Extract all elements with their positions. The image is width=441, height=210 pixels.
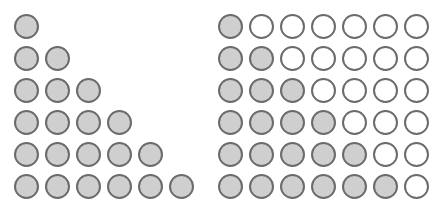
filled-circle <box>14 110 39 135</box>
filled-circle <box>14 46 39 71</box>
filled-circle <box>249 142 274 167</box>
empty-circle <box>311 14 336 39</box>
filled-circle <box>45 142 70 167</box>
empty-circle <box>342 110 367 135</box>
filled-circle <box>14 14 39 39</box>
empty-circle <box>311 78 336 103</box>
filled-circle <box>249 46 274 71</box>
empty-circle <box>404 78 429 103</box>
filled-circle <box>373 174 398 199</box>
empty-circle <box>373 46 398 71</box>
filled-circle <box>138 142 163 167</box>
filled-circle <box>45 110 70 135</box>
empty-circle <box>404 110 429 135</box>
filled-circle <box>76 110 101 135</box>
filled-circle <box>218 174 243 199</box>
filled-circle <box>107 142 132 167</box>
empty-circle <box>373 78 398 103</box>
filled-circle <box>218 46 243 71</box>
filled-circle <box>249 78 274 103</box>
filled-circle <box>218 78 243 103</box>
empty-circle <box>373 110 398 135</box>
filled-circle <box>218 142 243 167</box>
empty-circle <box>342 14 367 39</box>
empty-circle <box>342 78 367 103</box>
filled-circle <box>311 142 336 167</box>
filled-circle <box>107 174 132 199</box>
filled-circle <box>280 78 305 103</box>
filled-circle <box>280 142 305 167</box>
filled-circle <box>249 174 274 199</box>
empty-circle <box>280 14 305 39</box>
filled-circle <box>14 142 39 167</box>
filled-circle <box>169 174 194 199</box>
filled-circle <box>45 46 70 71</box>
filled-circle <box>218 110 243 135</box>
empty-circle <box>404 46 429 71</box>
filled-circle <box>249 110 274 135</box>
filled-circle <box>76 174 101 199</box>
filled-circle <box>342 142 367 167</box>
filled-circle <box>280 110 305 135</box>
empty-circle <box>373 14 398 39</box>
filled-circle <box>14 174 39 199</box>
empty-circle <box>342 46 367 71</box>
filled-circle <box>280 174 305 199</box>
filled-circle <box>45 78 70 103</box>
filled-circle <box>138 174 163 199</box>
filled-circle <box>76 78 101 103</box>
empty-circle <box>373 142 398 167</box>
filled-circle <box>107 110 132 135</box>
filled-circle <box>342 174 367 199</box>
empty-circle <box>404 14 429 39</box>
filled-circle <box>14 78 39 103</box>
empty-circle <box>404 142 429 167</box>
filled-circle <box>76 142 101 167</box>
filled-circle <box>311 174 336 199</box>
empty-circle <box>311 46 336 71</box>
empty-circle <box>249 14 274 39</box>
filled-circle <box>218 14 243 39</box>
empty-circle <box>404 174 429 199</box>
filled-circle <box>311 110 336 135</box>
filled-circle <box>45 174 70 199</box>
empty-circle <box>280 46 305 71</box>
